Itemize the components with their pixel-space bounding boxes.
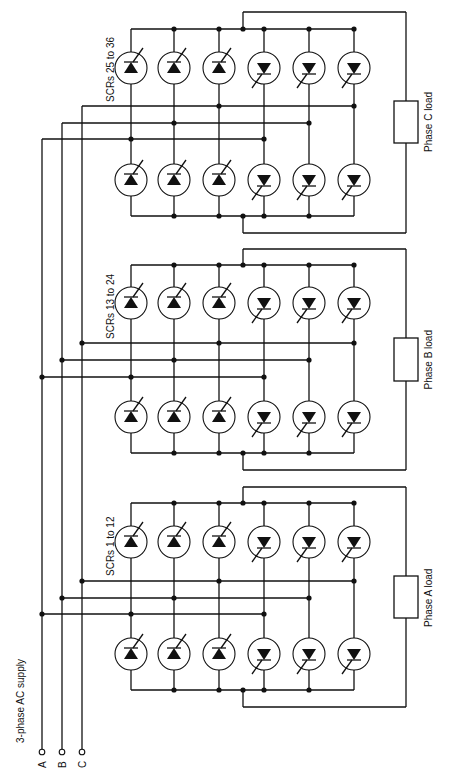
scr-triangle	[212, 62, 226, 73]
junction-dot	[171, 357, 176, 362]
junction-dot	[306, 595, 311, 600]
scr-gate	[252, 423, 262, 437]
junction-dot	[216, 103, 221, 108]
scr-triangle	[124, 62, 138, 73]
junction-dot	[128, 611, 133, 616]
junction-dot	[306, 120, 311, 125]
scr-triangle	[302, 649, 316, 660]
scr-thyristor-icon	[158, 283, 190, 319]
scr-thyristor-icon	[248, 638, 280, 674]
junction-dot	[39, 611, 44, 616]
junction-dot	[171, 262, 176, 267]
scr-triangle	[347, 63, 361, 74]
scr-gate	[221, 283, 231, 297]
load-resistor-icon	[394, 338, 418, 381]
supply-label: 3-phase AC supply	[15, 659, 26, 743]
junction-dot	[261, 213, 266, 218]
scr-thyristor-icon	[115, 634, 147, 670]
scr-thyristor-icon	[293, 401, 325, 437]
junction-dot	[261, 374, 266, 379]
scr-gate	[297, 423, 307, 437]
scr-triangle	[302, 175, 316, 186]
scr-triangle	[124, 174, 138, 185]
load-label: Phase A load	[423, 569, 434, 627]
scr-group-label: SCRs 25 to 36	[105, 37, 116, 102]
junction-dot	[261, 687, 266, 692]
scr-thyristor-icon	[158, 48, 190, 84]
scr-thyristor-icon	[338, 526, 370, 562]
scr-thyristor-icon	[115, 283, 147, 319]
scr-thyristor-icon	[203, 397, 235, 433]
scr-triangle	[124, 536, 138, 547]
junction-dot	[216, 450, 221, 455]
scr-triangle	[347, 649, 361, 660]
scr-triangle	[302, 63, 316, 74]
scr-triangle	[212, 411, 226, 422]
scr-gate	[342, 74, 352, 88]
junction-dot	[261, 26, 266, 31]
scr-gate	[342, 423, 352, 437]
scr-gate	[176, 397, 186, 411]
scr-thyristor-icon	[115, 160, 147, 196]
scr-thyristor-icon	[338, 287, 370, 323]
scr-triangle	[257, 537, 271, 548]
scr-gate	[297, 309, 307, 323]
scr-gate	[297, 186, 307, 200]
junction-dot	[59, 595, 64, 600]
scr-thyristor-icon	[293, 287, 325, 323]
load-label: Phase B load	[423, 330, 434, 390]
junction-dot	[351, 340, 356, 345]
junction-dot	[171, 450, 176, 455]
scr-group-A	[39, 487, 418, 707]
junction-dot	[171, 213, 176, 218]
junction-dot	[351, 578, 356, 583]
scr-gate	[342, 548, 352, 562]
scr-thyristor-icon	[158, 397, 190, 433]
scr-gate	[252, 309, 262, 323]
junction-dot	[216, 213, 221, 218]
junction-dot	[216, 262, 221, 267]
scr-gate	[176, 522, 186, 536]
scr-thyristor-icon	[338, 52, 370, 88]
scr-thyristor-icon	[115, 397, 147, 433]
junction-dot	[128, 374, 133, 379]
scr-thyristor-icon	[293, 164, 325, 200]
scr-thyristor-icon	[248, 52, 280, 88]
scr-triangle	[124, 297, 138, 308]
scr-triangle	[347, 412, 361, 423]
scr-gate	[342, 186, 352, 200]
junction-dot	[306, 500, 311, 505]
junction-dot	[171, 595, 176, 600]
scr-gate	[221, 160, 231, 174]
scr-thyristor-icon	[203, 283, 235, 319]
phase-C-terminal	[79, 749, 85, 755]
scr-gate	[252, 660, 262, 674]
scr-triangle	[257, 649, 271, 660]
scr-thyristor-icon	[115, 48, 147, 84]
junction-dot	[306, 687, 311, 692]
circuit-diagram: 3-phase AC supply ABCSCRs 25 to 36Phase …	[0, 0, 452, 782]
scr-triangle	[347, 175, 361, 186]
scr-triangle	[302, 412, 316, 423]
scr-triangle	[302, 298, 316, 309]
scr-thyristor-icon	[203, 160, 235, 196]
junction-dot	[351, 500, 356, 505]
scr-triangle	[257, 63, 271, 74]
scr-thyristor-icon	[158, 160, 190, 196]
scr-triangle	[257, 298, 271, 309]
scr-triangle	[257, 175, 271, 186]
scr-triangle	[124, 648, 138, 659]
junction-dot	[171, 120, 176, 125]
scr-triangle	[257, 412, 271, 423]
scr-triangle	[212, 648, 226, 659]
junction-dot	[216, 500, 221, 505]
scr-thyristor-icon	[338, 638, 370, 674]
scr-gate	[221, 397, 231, 411]
scr-gate	[176, 283, 186, 297]
scr-triangle	[167, 411, 181, 422]
scr-triangle	[167, 174, 181, 185]
load-resistor-icon	[394, 576, 418, 618]
scr-thyristor-icon	[338, 401, 370, 437]
scr-gate	[342, 660, 352, 674]
junction-dot	[261, 500, 266, 505]
